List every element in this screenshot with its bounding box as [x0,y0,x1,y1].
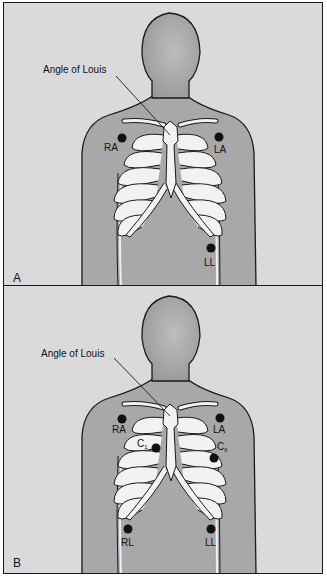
electrode-c1 [152,444,161,453]
electrode-ll [207,244,216,253]
electrode-ra [118,415,127,424]
panel-letter-a: A [13,271,21,285]
electrode-c6 [210,454,219,463]
electrode-la [216,414,225,423]
electrode-ll [207,525,216,534]
electrode-label-rl: RL [121,538,134,548]
electrode-label-la: LA [214,145,226,155]
angle-of-louis-label: Angle of Louis [43,65,106,75]
panel-a: Angle of Louis RA LA LL A [3,2,323,286]
electrode-label-c1: C1 [137,439,148,450]
angle-of-louis-label: Angle of Louis [41,349,104,359]
panel-letter-b: B [13,556,21,570]
torso-illustration-a [4,3,323,286]
panel-b: Angle of Louis RA LA C1 C6 RL LL B [3,285,323,574]
torso-illustration-b [4,286,323,574]
electrode-la [215,133,224,142]
electrode-label-ra: RA [112,425,126,435]
electrode-label-la: LA [213,425,225,435]
electrode-label-ra: RA [104,143,118,153]
electrode-label-ll: LL [205,538,216,548]
electrode-label-c6: C6 [217,442,228,453]
electrode-rl [124,525,133,534]
electrode-ra [118,134,127,143]
electrode-label-ll: LL [204,258,215,268]
